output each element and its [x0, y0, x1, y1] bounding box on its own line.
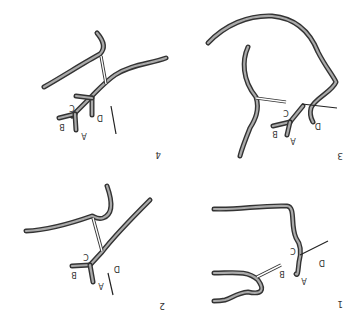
panel-4-label-b: B	[59, 122, 65, 131]
panel-1-label-c: C	[290, 246, 296, 255]
panel-4-label-c: C	[69, 103, 75, 112]
panel-4-label-d: D	[97, 113, 103, 122]
panel-3: C D B A 3	[208, 16, 343, 161]
panel-1-label-a: A	[301, 276, 307, 285]
panel-1-label-b: B	[279, 269, 285, 278]
panel-4-label-a: A	[81, 131, 87, 140]
panel-3-label-a: A	[290, 136, 296, 145]
panel-2: C D B A 2	[26, 186, 165, 311]
panel-3-number: 3	[337, 151, 343, 161]
panel-1: C D B A 1	[214, 206, 343, 309]
panel-2-number: 2	[159, 301, 165, 311]
panel-4-number: 4	[155, 150, 161, 160]
panel-3-label-b: B	[272, 129, 278, 138]
panel-2-label-b: B	[71, 270, 77, 279]
anatomical-diagram: C D B A 4 C D B A 3	[0, 0, 360, 332]
panel-4: C D B A 4	[44, 33, 166, 160]
panel-1-number: 1	[337, 299, 343, 309]
panel-3-label-c: C	[283, 108, 289, 117]
panel-2-label-a: A	[98, 281, 104, 290]
panel-3-label-d: D	[315, 121, 321, 130]
panel-1-label-d: D	[319, 258, 325, 267]
panel-2-label-c: C	[83, 252, 89, 261]
panel-2-label-d: D	[114, 264, 120, 273]
